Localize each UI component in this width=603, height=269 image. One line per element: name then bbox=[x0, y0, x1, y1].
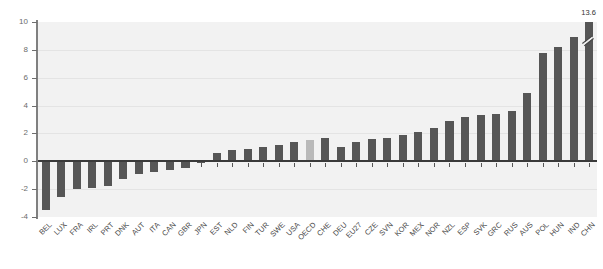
x-tick-mark bbox=[46, 163, 47, 167]
y-tick-mark bbox=[32, 50, 37, 51]
x-tick-mark bbox=[403, 163, 404, 167]
y-tick-label: 10 bbox=[0, 18, 28, 26]
bar-hun bbox=[554, 47, 562, 161]
x-tick-mark bbox=[123, 163, 124, 167]
x-tick-mark bbox=[217, 163, 218, 167]
bar-swe bbox=[275, 145, 283, 162]
y-tick-label: 2 bbox=[0, 129, 28, 137]
y-tick-mark bbox=[32, 161, 37, 162]
value-annotation-chn: 13.6 bbox=[581, 9, 596, 17]
x-tick-mark bbox=[543, 163, 544, 167]
x-tick-mark bbox=[574, 163, 575, 167]
x-tick-mark bbox=[248, 163, 249, 167]
x-tick-mark bbox=[61, 163, 62, 167]
bar-pol bbox=[539, 53, 547, 162]
bar-tur bbox=[259, 147, 267, 161]
bar-cze bbox=[368, 139, 376, 161]
y-tick-label: -4 bbox=[0, 213, 28, 221]
x-tick-mark bbox=[418, 163, 419, 167]
chart-figure: -4-20246810 BELLUXFRAIRLPRTDNKAUTITACANG… bbox=[0, 0, 603, 269]
x-tick-mark bbox=[139, 163, 140, 167]
y-tick-label: 4 bbox=[0, 102, 28, 110]
bar-ind bbox=[570, 37, 578, 161]
gridline bbox=[38, 78, 597, 79]
x-tick-mark bbox=[77, 163, 78, 167]
bar-deu bbox=[337, 147, 345, 161]
x-tick-mark bbox=[186, 163, 187, 167]
x-tick-mark bbox=[558, 163, 559, 167]
bar-eu27 bbox=[352, 142, 360, 162]
y-tick-label: 0 bbox=[0, 157, 28, 165]
x-tick-mark bbox=[325, 163, 326, 167]
x-tick-mark bbox=[481, 163, 482, 167]
y-tick-mark bbox=[32, 106, 37, 107]
x-tick-mark bbox=[92, 163, 93, 167]
bar-nzl bbox=[445, 121, 453, 161]
bar-bel bbox=[42, 161, 50, 210]
y-tick-mark bbox=[32, 217, 37, 218]
x-tick-mark bbox=[356, 163, 357, 167]
x-tick-mark bbox=[170, 163, 171, 167]
x-tick-mark bbox=[108, 163, 109, 167]
bar-che bbox=[321, 138, 329, 162]
x-tick-mark bbox=[496, 163, 497, 167]
x-tick-mark bbox=[387, 163, 388, 167]
x-tick-mark bbox=[154, 163, 155, 167]
x-tick-mark bbox=[310, 163, 311, 167]
gridline bbox=[38, 50, 597, 51]
x-tick-mark bbox=[279, 163, 280, 167]
y-tick-label: 8 bbox=[0, 46, 28, 54]
y-tick-mark bbox=[32, 133, 37, 134]
bar-aus bbox=[523, 93, 531, 161]
gridline bbox=[38, 106, 597, 107]
x-tick-mark bbox=[589, 163, 590, 167]
bar-svn bbox=[383, 138, 391, 162]
x-tick-mark bbox=[434, 163, 435, 167]
bar-nor bbox=[430, 128, 438, 161]
x-tick-mark bbox=[465, 163, 466, 167]
x-tick-mark bbox=[512, 163, 513, 167]
y-tick-mark bbox=[32, 189, 37, 190]
y-tick-label: -2 bbox=[0, 185, 28, 193]
x-tick-mark bbox=[372, 163, 373, 167]
x-tick-mark bbox=[341, 163, 342, 167]
bar-grc bbox=[492, 114, 500, 161]
bar-oecd bbox=[306, 140, 314, 161]
chart-title bbox=[0, 0, 603, 7]
x-tick-mark bbox=[449, 163, 450, 167]
bar-usa bbox=[290, 142, 298, 162]
x-tick-mark bbox=[527, 163, 528, 167]
bar-mex bbox=[414, 132, 422, 161]
y-tick-label: 6 bbox=[0, 74, 28, 82]
x-tick-mark bbox=[232, 163, 233, 167]
x-tick-mark bbox=[201, 163, 202, 167]
x-tick-mark bbox=[263, 163, 264, 167]
x-tick-mark bbox=[294, 163, 295, 167]
bar-svk bbox=[477, 115, 485, 161]
zero-line bbox=[38, 160, 597, 162]
y-tick-mark bbox=[32, 78, 37, 79]
bar-kor bbox=[399, 135, 407, 161]
gridline bbox=[38, 189, 597, 190]
y-tick-mark bbox=[32, 22, 37, 23]
bar-rus bbox=[508, 111, 516, 161]
bar-esp bbox=[461, 117, 469, 162]
